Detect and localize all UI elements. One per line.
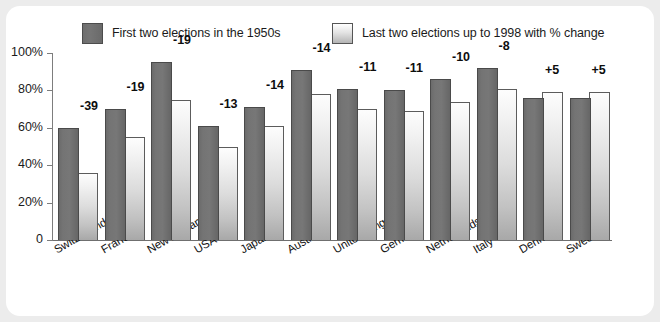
y-tick-label: 40% — [18, 157, 43, 171]
chart-panel: First two elections in the 1950s Last tw… — [6, 6, 654, 316]
bar-change-label: -19 — [127, 80, 145, 94]
bar-series2 — [403, 111, 424, 240]
bar-series1 — [198, 126, 219, 240]
y-tick-label: 100% — [11, 45, 43, 59]
y-tick-label: 60% — [18, 120, 43, 134]
bar-series2 — [124, 137, 145, 240]
bar-series2 — [496, 89, 517, 240]
y-tick — [47, 53, 53, 54]
bar-change-label: -19 — [173, 33, 191, 47]
bar-change-label: +5 — [592, 63, 606, 77]
bar-change-label: -8 — [499, 39, 510, 53]
bar-series2 — [263, 126, 284, 240]
bar-change-label: -11 — [359, 60, 376, 74]
y-axis-line — [52, 54, 53, 241]
bar-change-label: -39 — [80, 99, 98, 113]
bar-series1 — [523, 98, 544, 240]
bar-series2 — [589, 92, 610, 240]
bar-change-label: -14 — [313, 41, 331, 55]
y-tick — [47, 128, 53, 129]
y-tick — [47, 90, 53, 91]
bar-series2 — [542, 92, 563, 240]
y-tick-label: 0 — [36, 232, 43, 246]
bar-series2 — [310, 94, 331, 240]
plot-area: 020%40%60%80%100% -39-19-19-13-14-14-11-… — [6, 6, 654, 316]
y-tick-label: 80% — [18, 82, 43, 96]
bar-series1 — [291, 70, 312, 240]
bar-series1 — [105, 109, 126, 240]
bar-change-label: -10 — [452, 50, 470, 64]
bar-series1 — [384, 90, 405, 240]
bar-series1 — [430, 79, 451, 240]
y-tick — [47, 165, 53, 166]
y-tick-label: 20% — [18, 195, 43, 209]
y-tick — [47, 203, 53, 204]
bar-change-label: -14 — [266, 78, 284, 92]
bar-series1 — [337, 89, 358, 240]
y-tick — [47, 240, 53, 241]
bar-series2 — [449, 102, 470, 240]
bar-series2 — [217, 147, 238, 241]
bar-change-label: -11 — [406, 61, 423, 75]
bar-series1 — [151, 62, 172, 240]
bar-series1 — [477, 68, 498, 240]
bar-series2 — [170, 100, 191, 240]
bar-change-label: -13 — [220, 97, 238, 111]
bar-series2 — [356, 109, 377, 240]
bar-series2 — [77, 173, 98, 240]
bar-series1 — [570, 98, 591, 240]
bar-change-label: +5 — [545, 63, 559, 77]
bar-series1 — [244, 107, 265, 240]
bar-series1 — [58, 128, 79, 240]
